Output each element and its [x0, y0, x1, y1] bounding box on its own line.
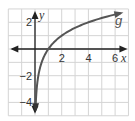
y-tick-label: 2 [26, 16, 32, 28]
y-tick-label: −2 [19, 70, 32, 82]
x-axis-label: x [120, 51, 127, 65]
y-tick-label: −4 [19, 96, 32, 108]
x-tick-label: 4 [85, 52, 91, 64]
y-axis-up-arrow-icon [32, 11, 39, 19]
x-axis-left-arrow-icon [10, 46, 18, 53]
x-tick-label: 2 [59, 52, 65, 64]
graph: 2462−2−4 x y g [0, 0, 135, 121]
curve-label-g: g [115, 13, 123, 28]
x-tick-label: 6 [112, 52, 118, 64]
y-axis-label: y [38, 8, 45, 22]
